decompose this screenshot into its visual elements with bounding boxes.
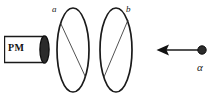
ring-b-chord — [104, 20, 128, 77]
pm-window-ellipse — [40, 36, 49, 63]
pm-label: PM — [8, 43, 24, 53]
alpha-particle-marker — [198, 46, 206, 54]
ring-b-outline — [100, 8, 132, 92]
ring-b-label: b — [126, 5, 131, 14]
alpha-particle-group — [157, 45, 207, 56]
ring-a-chord — [61, 23, 86, 77]
ring-detector-a — [57, 8, 89, 92]
physics-diagram: PM a b α — [0, 0, 215, 101]
alpha-label: α — [197, 62, 203, 73]
ring-a-label: a — [52, 5, 57, 14]
ring-detector-b — [100, 8, 132, 92]
diagram-canvas — [0, 0, 215, 101]
